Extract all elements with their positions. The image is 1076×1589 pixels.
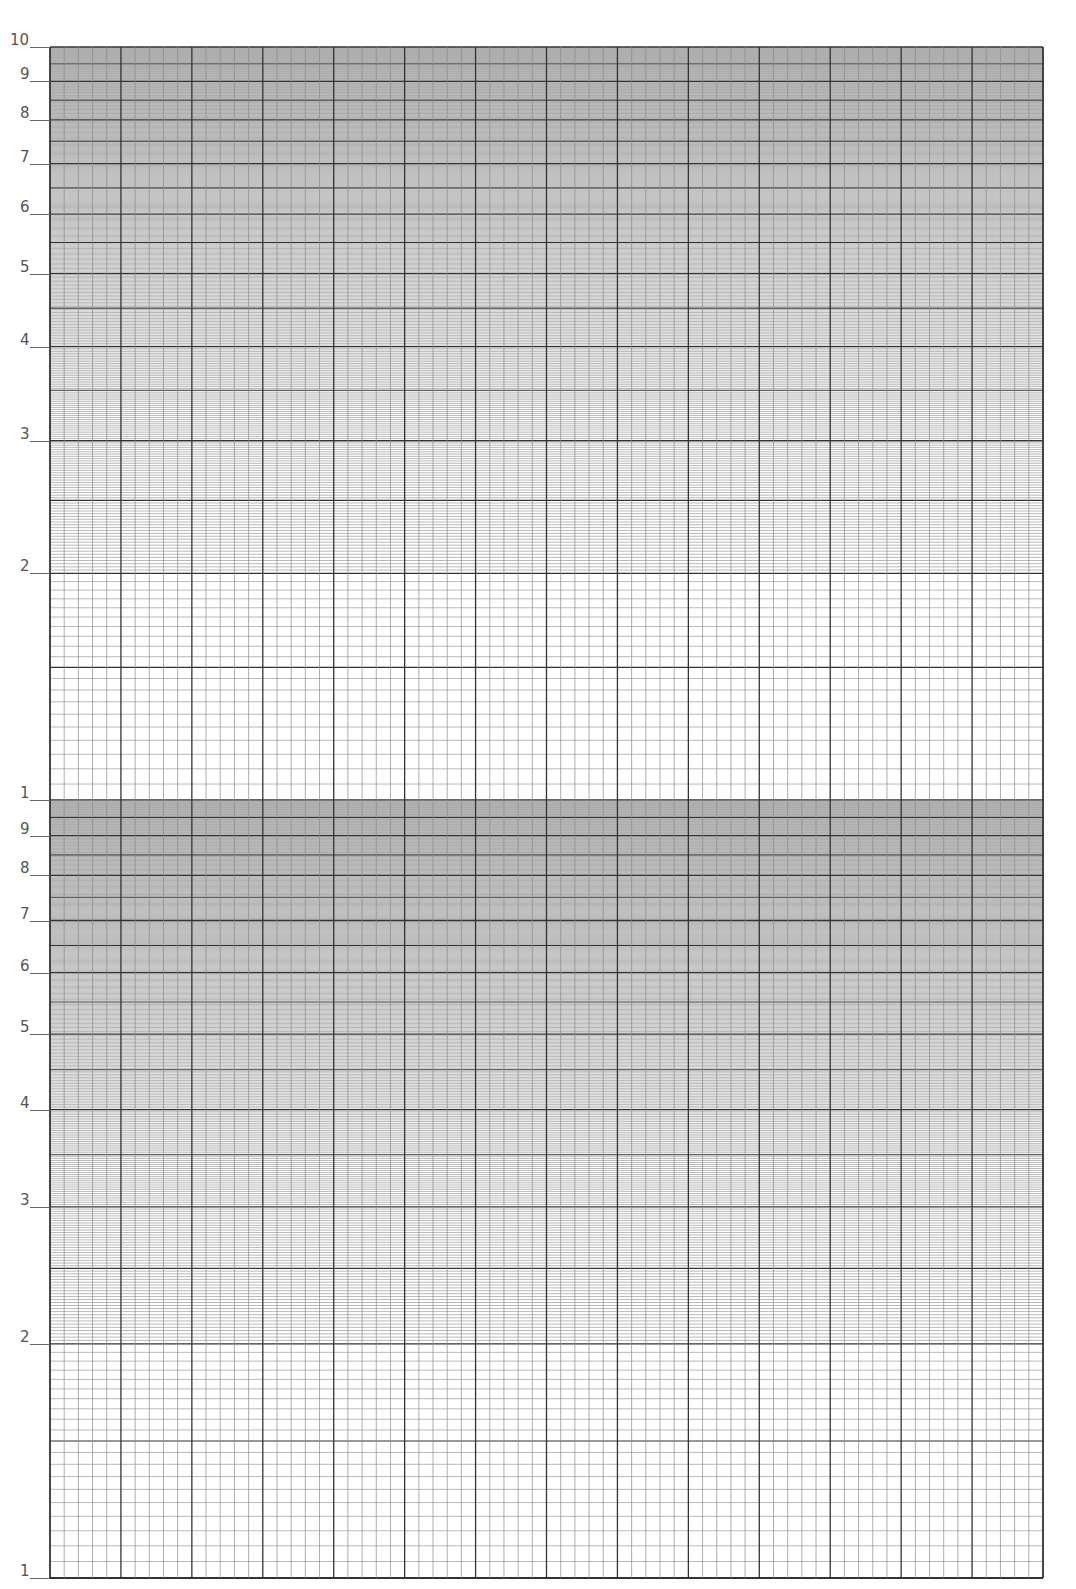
y-label-lower: 1 bbox=[20, 1564, 30, 1579]
y-label-upper: 4 bbox=[20, 333, 30, 348]
y-tick-mark bbox=[30, 81, 50, 82]
y-label-lower: 9 bbox=[20, 822, 30, 837]
y-label-upper: 9 bbox=[20, 67, 30, 82]
y-tick-mark bbox=[30, 120, 50, 121]
y-label-lower: 3 bbox=[20, 1193, 30, 1208]
y-label-lower: 8 bbox=[20, 861, 30, 876]
y-label-upper: 2 bbox=[20, 559, 30, 574]
y-label-upper: 7 bbox=[20, 150, 30, 165]
y-tick-mark bbox=[30, 573, 50, 574]
y-tick-mark bbox=[30, 1344, 50, 1345]
y-tick-mark bbox=[30, 1034, 50, 1035]
y-tick-mark bbox=[30, 800, 50, 801]
y-label-upper: 8 bbox=[20, 106, 30, 121]
y-tick-mark bbox=[30, 921, 50, 922]
semilog-grid bbox=[0, 0, 1076, 1589]
y-tick-mark bbox=[30, 47, 50, 48]
y-tick-mark bbox=[30, 973, 50, 974]
y-label-lower: 1 bbox=[20, 786, 30, 801]
y-label-lower: 4 bbox=[20, 1096, 30, 1111]
y-tick-mark bbox=[30, 214, 50, 215]
y-tick-mark bbox=[30, 875, 50, 876]
y-tick-mark bbox=[30, 347, 50, 348]
y-label-upper: 6 bbox=[20, 200, 30, 215]
y-label-upper: 3 bbox=[20, 427, 30, 442]
y-tick-mark bbox=[30, 274, 50, 275]
y-tick-mark bbox=[30, 1578, 50, 1579]
y-label-lower: 6 bbox=[20, 959, 30, 974]
y-tick-mark bbox=[30, 441, 50, 442]
y-tick-mark bbox=[30, 836, 50, 837]
y-label-upper: 5 bbox=[20, 260, 30, 275]
y-label-lower: 7 bbox=[20, 907, 30, 922]
y-tick-mark bbox=[30, 164, 50, 165]
y-tick-mark bbox=[30, 1110, 50, 1111]
y-label-upper: 10 bbox=[10, 33, 29, 48]
y-tick-mark bbox=[30, 1207, 50, 1208]
y-label-lower: 2 bbox=[20, 1330, 30, 1345]
y-label-lower: 5 bbox=[20, 1020, 30, 1035]
